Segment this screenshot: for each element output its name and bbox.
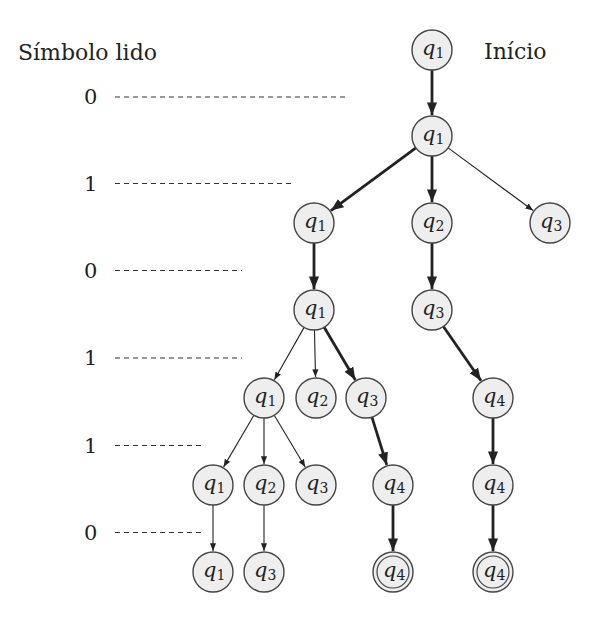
nfa-computation-tree: Símbolo lido Início 010110 q1q1q1q2q3q1q…: [0, 0, 599, 627]
symbol-label: 0: [84, 259, 97, 283]
transition-edge-bold: [443, 326, 481, 380]
symbol-label: 1: [84, 346, 97, 370]
transition-edge-bold: [331, 148, 416, 211]
state-node: q1: [412, 30, 452, 70]
state-node: q1: [294, 290, 334, 330]
state-node: q1: [412, 116, 452, 156]
state-node: q3: [244, 552, 284, 592]
start-label: Início: [484, 39, 547, 64]
symbol-label: 0: [84, 85, 97, 109]
state-node: q1: [193, 465, 233, 505]
state-node: q3: [296, 465, 336, 505]
symbol-label: 1: [84, 434, 97, 458]
symbol-label: 1: [84, 172, 97, 196]
nodes: q1q1q1q2q3q1q3q1q2q3q4q1q2q3q4q4q1q3q4q4: [193, 30, 570, 592]
transition-edge: [274, 415, 305, 467]
transition-edge: [224, 415, 254, 467]
symbol-read-header: Símbolo lido: [18, 40, 157, 65]
state-node: q1: [294, 203, 334, 243]
accept-state-node: q4: [473, 552, 513, 592]
transition-edge-bold: [372, 417, 387, 465]
state-node: q1: [244, 378, 284, 418]
transition-edge: [314, 330, 315, 377]
state-node: q4: [473, 465, 513, 505]
state-node: q3: [412, 290, 452, 330]
transition-edge: [448, 148, 533, 211]
state-node: q4: [473, 378, 513, 418]
accept-state-node: q4: [373, 552, 413, 592]
state-node: q2: [412, 203, 452, 243]
symbol-label: 0: [84, 521, 97, 545]
state-node: q4: [373, 465, 413, 505]
state-node: q2: [244, 465, 284, 505]
state-node: q2: [296, 378, 336, 418]
state-node: q1: [193, 552, 233, 592]
transition-edge: [274, 327, 304, 379]
transition-edge-bold: [324, 327, 355, 380]
state-node: q3: [346, 378, 386, 418]
state-node: q3: [530, 203, 570, 243]
